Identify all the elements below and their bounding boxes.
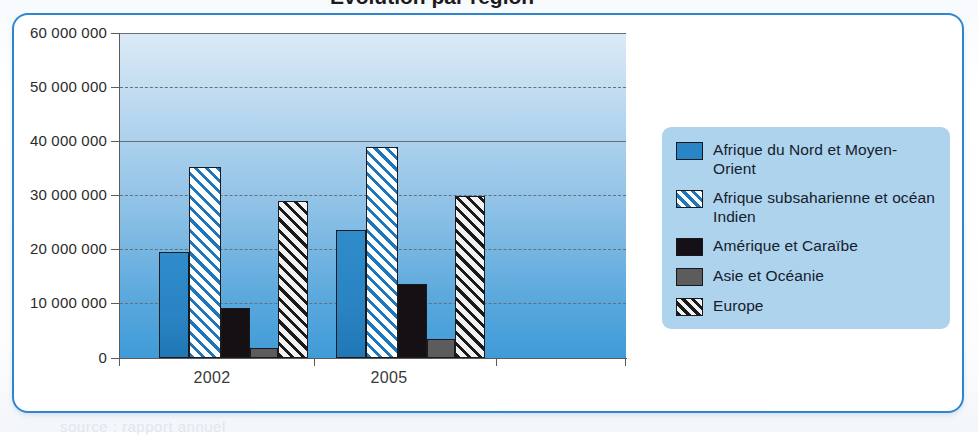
bar-2002-europe (278, 201, 308, 358)
bar-2005-europe (455, 196, 485, 358)
plot-area (119, 33, 626, 358)
legend-item-afrique-subsaharienne: Afrique subsaharienne et océan Indien (676, 188, 938, 226)
y-axis-label-20000000: 20 000 000 (12, 240, 107, 257)
y-tick-40000000 (111, 141, 119, 142)
bar-2002-asie-oceanie (250, 348, 278, 358)
legend-item-europe: Europe (676, 296, 938, 316)
legend-label-afrique-subsaharienne: Afrique subsaharienne et océan Indien (713, 188, 938, 226)
y-axis-label-10000000: 10 000 000 (12, 294, 107, 311)
figure-frame: 60 000 000 50 000 000 40 000 000 30 000 … (12, 13, 964, 413)
y-tick-10000000 (111, 303, 119, 304)
y-axis-label-0: 0 (12, 349, 107, 366)
bar-2005-afrique-subsaharienne (366, 147, 398, 358)
legend-label-amerique-caraibe: Amérique et Caraïbe (713, 236, 858, 255)
legend-item-amerique-caraibe: Amérique et Caraïbe (676, 236, 938, 256)
cropped-chart-title-text: Évolution par région (330, 0, 534, 9)
bar-2002-afrique-subsaharienne (189, 167, 221, 358)
legend-swatch-solid-blue-icon (676, 142, 703, 160)
y-axis-label-50000000: 50 000 000 (12, 78, 107, 95)
legend-item-asie-oceanie: Asie et Océanie (676, 266, 938, 286)
legend-label-afrique-nord: Afrique du Nord et Moyen-Orient (713, 140, 938, 178)
x-tick-end-2005 (496, 358, 497, 366)
y-tick-50000000 (111, 87, 119, 88)
y-tick-20000000 (111, 249, 119, 250)
gridline-50000000 (120, 87, 626, 88)
bar-2002-amerique-caraibe (221, 308, 250, 358)
legend-item-afrique-nord: Afrique du Nord et Moyen-Orient (676, 140, 938, 178)
x-axis-label-2005: 2005 (344, 369, 434, 387)
legend-swatch-gray-icon (676, 268, 703, 286)
y-tick-60000000 (111, 33, 119, 34)
legend-label-europe: Europe (713, 296, 764, 315)
legend-swatch-hatch-dark-icon (676, 298, 703, 316)
y-axis-label-30000000: 30 000 000 (12, 186, 107, 203)
legend-swatch-black-icon (676, 238, 703, 256)
x-axis-line (119, 358, 627, 359)
bar-2002-afrique-nord (159, 252, 189, 358)
y-tick-30000000 (111, 195, 119, 196)
ghost-text-line3: source : rapport annuel (60, 418, 226, 435)
y-axis-label-40000000: 40 000 000 (12, 132, 107, 149)
bar-2005-afrique-nord (336, 230, 366, 358)
legend-swatch-hatch-blue-icon (676, 190, 703, 208)
legend-label-asie-oceanie: Asie et Océanie (713, 266, 824, 285)
bar-2005-asie-oceanie (427, 339, 455, 358)
gridline-60000000 (120, 33, 626, 34)
y-tick-0 (111, 358, 119, 359)
y-axis-label-60000000: 60 000 000 (12, 24, 107, 41)
cropped-chart-title: Évolution par région (0, 0, 978, 14)
x-axis-label-2002: 2002 (167, 369, 257, 387)
bar-2005-amerique-caraibe (398, 284, 427, 358)
chart-legend: Afrique du Nord et Moyen-Orient Afrique … (662, 127, 950, 329)
bar-chart: 60 000 000 50 000 000 40 000 000 30 000 … (14, 15, 966, 415)
gridline-40000000 (120, 141, 626, 142)
x-tick-2002-2005 (314, 358, 315, 366)
x-tick-right (625, 358, 626, 366)
x-tick-start (119, 358, 120, 366)
